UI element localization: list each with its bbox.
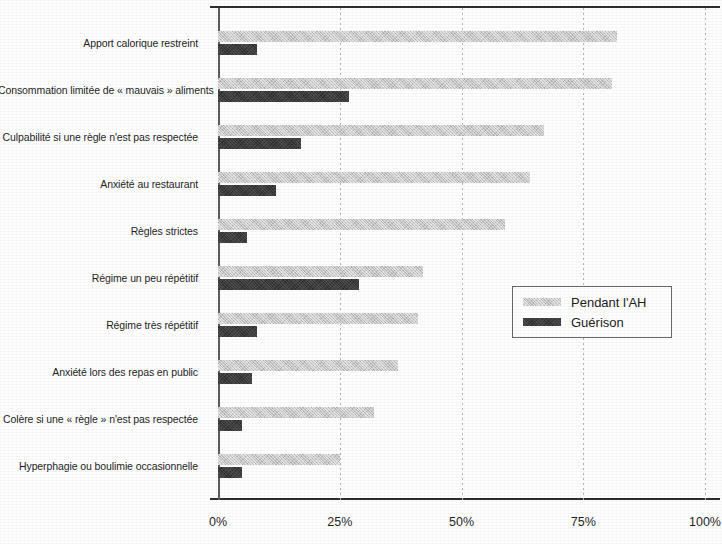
- category-label: Règles strictes: [0, 225, 198, 237]
- bar-guerison: [218, 326, 257, 337]
- legend-item-guerison: Guérison: [523, 312, 624, 332]
- bar-pendant-lah: [218, 78, 612, 89]
- category-label: Consommation limitée de « mauvais » alim…: [0, 84, 198, 96]
- bar-guerison: [218, 279, 359, 290]
- category-label: Anxiété lors des repas en public: [0, 366, 198, 378]
- bar-pendant-lah: [218, 219, 505, 230]
- category-label: Hyperphagie ou boulimie occasionnelle: [0, 460, 198, 472]
- category-label: Apport calorique restreint: [0, 37, 198, 49]
- bar-guerison: [218, 91, 349, 102]
- bar-guerison: [218, 467, 242, 478]
- x-tick-label: 75%: [571, 515, 596, 529]
- category-label: Régime très répétitif: [0, 319, 198, 331]
- bar-pendant-lah: [218, 313, 418, 324]
- legend-swatch-icon-pendant-lah: [523, 298, 561, 306]
- x-tick-label: 0%: [209, 515, 227, 529]
- bar-chart-figure: Apport calorique restreintConsommation l…: [0, 0, 722, 544]
- category-axis-labels: Apport calorique restreintConsommation l…: [0, 6, 206, 500]
- bar-guerison: [218, 373, 252, 384]
- bar-guerison: [218, 185, 276, 196]
- legend-swatch-icon-guerison: [523, 318, 561, 326]
- bar-guerison: [218, 138, 301, 149]
- x-tick-label: 100%: [689, 515, 721, 529]
- category-label: Anxiété au restaurant: [0, 178, 198, 190]
- bar-pendant-lah: [218, 172, 530, 183]
- x-axis-tick-labels: 0%25%50%75%100%: [0, 515, 722, 539]
- category-label: Régime un peu répétitif: [0, 272, 198, 284]
- chart-legend: Pendant l'AH Guérison: [512, 286, 672, 338]
- legend-label-pendant-lah: Pendant l'AH: [571, 295, 646, 310]
- bars-layer: [218, 6, 720, 500]
- legend-item-pendant-lah: Pendant l'AH: [523, 292, 646, 312]
- x-tick-label: 25%: [327, 515, 352, 529]
- bar-guerison: [218, 420, 242, 431]
- bar-guerison: [218, 232, 247, 243]
- category-label: Colère si une « règle » n'est pas respec…: [0, 413, 198, 425]
- bar-pendant-lah: [218, 360, 398, 371]
- bar-guerison: [218, 44, 257, 55]
- bar-pendant-lah: [218, 266, 423, 277]
- category-label: Culpabilité si une règle n'est pas respe…: [0, 131, 198, 143]
- bar-pendant-lah: [218, 407, 374, 418]
- bar-pendant-lah: [218, 125, 544, 136]
- x-tick-label: 50%: [449, 515, 474, 529]
- bar-pendant-lah: [218, 31, 617, 42]
- legend-label-guerison: Guérison: [571, 315, 624, 330]
- bar-pendant-lah: [218, 454, 340, 465]
